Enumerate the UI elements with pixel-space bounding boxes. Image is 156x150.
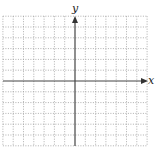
y-axis-arrow-icon — [72, 16, 78, 23]
x-axis-label: x — [148, 75, 154, 86]
coordinate-plane — [0, 0, 156, 150]
y-axis-label: y — [72, 3, 78, 14]
